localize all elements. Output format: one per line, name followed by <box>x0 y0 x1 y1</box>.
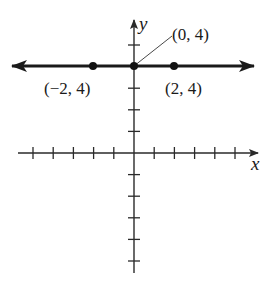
coordinate-graph: x y (−2, 4) (0, 4) (2, 4) <box>0 0 280 302</box>
label-point-2-4: (2, 4) <box>165 79 202 98</box>
label-point-neg2-4: (−2, 4) <box>44 79 90 98</box>
point-neg2-4 <box>89 62 97 70</box>
x-axis-label: x <box>250 153 260 174</box>
leader-line <box>134 36 172 66</box>
point-2-4 <box>170 62 178 70</box>
y-axis: y <box>128 13 148 273</box>
x-axis: x <box>18 147 260 174</box>
point-0-4 <box>130 62 138 70</box>
label-point-0-4: (0, 4) <box>172 25 209 44</box>
y-axis-label: y <box>137 13 148 34</box>
